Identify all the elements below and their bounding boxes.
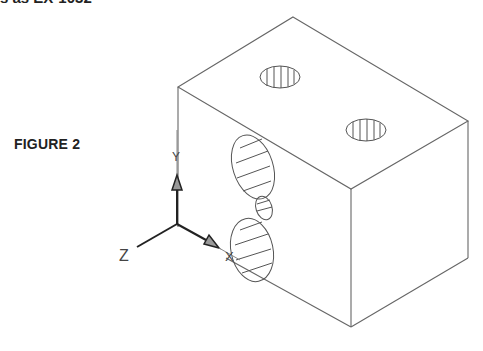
top-hole-1 xyxy=(260,66,300,88)
x-arrow-icon xyxy=(204,235,219,248)
isometric-block-drawing xyxy=(0,0,483,351)
ucs-icon xyxy=(137,130,240,260)
y-arrow-icon xyxy=(172,175,182,190)
z-axis-label: Z xyxy=(119,247,129,265)
side-hole-upper xyxy=(224,129,282,204)
top-hole-2 xyxy=(346,119,386,141)
drawing-canvas: s as EX-1032 FIGURE 2 xyxy=(0,0,483,351)
y-axis-label: Y xyxy=(172,150,180,164)
block-outline xyxy=(178,17,468,327)
x-axis-label: X xyxy=(225,249,234,264)
